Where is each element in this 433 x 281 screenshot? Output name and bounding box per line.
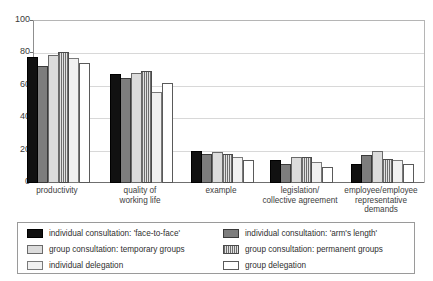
x-axis-label-0: productivity bbox=[14, 186, 100, 196]
bar-0-1 bbox=[37, 66, 48, 183]
bar-0-4 bbox=[68, 58, 79, 183]
bar-4-4 bbox=[392, 160, 403, 183]
bar-chart: 100806040200 bbox=[0, 8, 433, 186]
bar-2-4 bbox=[232, 157, 243, 183]
bar-1-1 bbox=[120, 78, 131, 183]
bar-3-2 bbox=[291, 157, 302, 183]
bar-4-0 bbox=[351, 164, 362, 183]
plot-area bbox=[33, 20, 425, 183]
bar-4-1 bbox=[361, 155, 372, 183]
bar-0-0 bbox=[27, 57, 38, 183]
legend-item-0[interactable]: individual consultation: 'face-to-face' bbox=[27, 227, 180, 240]
bar-2-1 bbox=[201, 154, 212, 183]
y-tick-label-0: 0 bbox=[2, 177, 30, 186]
x-axis-label-line: working life bbox=[97, 196, 183, 206]
bar-0-3 bbox=[58, 52, 69, 183]
bar-1-2 bbox=[131, 73, 142, 183]
bar-3-1 bbox=[280, 164, 291, 183]
x-axis-labels: productivityquality ofworking lifeexampl… bbox=[0, 186, 433, 220]
x-axis-label-line: productivity bbox=[14, 186, 100, 196]
x-axis-label-line: example bbox=[186, 186, 256, 196]
legend-item-5[interactable]: group delegation bbox=[223, 259, 306, 272]
legend-item-3[interactable]: group consultation: permanent groups bbox=[223, 243, 383, 256]
bar-2-2 bbox=[212, 152, 223, 183]
y-tick-label-40: 40 bbox=[2, 112, 30, 121]
x-axis-label-1: quality ofworking life bbox=[97, 186, 183, 205]
bar-1-5 bbox=[162, 83, 173, 183]
legend-label: individual delegation bbox=[49, 261, 123, 270]
bar-3-3 bbox=[301, 157, 312, 183]
x-axis-label-2: example bbox=[186, 186, 256, 196]
y-tick-label-60: 60 bbox=[2, 80, 30, 89]
legend-swatch-icon bbox=[27, 261, 43, 270]
bar-3-5 bbox=[322, 167, 333, 183]
bar-1-0 bbox=[110, 74, 121, 183]
clipped-caption-strip bbox=[0, 0, 433, 7]
bar-2-3 bbox=[222, 154, 233, 183]
legend-item-1[interactable]: individual consultation: 'arm's length' bbox=[223, 227, 377, 240]
bar-group-4 bbox=[351, 21, 413, 183]
bar-4-2 bbox=[372, 151, 383, 183]
legend-label: group consultation: temporary groups bbox=[49, 245, 185, 254]
legend-label: individual consultation: 'arm's length' bbox=[245, 229, 377, 238]
bar-group-3 bbox=[270, 21, 332, 183]
bar-2-5 bbox=[243, 160, 254, 183]
y-tick-label-100: 100 bbox=[2, 15, 30, 24]
legend-label: individual consultation: 'face-to-face' bbox=[49, 229, 180, 238]
legend-label: group consultation: permanent groups bbox=[245, 245, 383, 254]
bar-group-2 bbox=[191, 21, 253, 183]
x-axis-label-line: quality of bbox=[97, 186, 183, 196]
x-axis-label-line: employee/employee bbox=[326, 186, 433, 196]
legend-label: group delegation bbox=[245, 261, 306, 270]
bar-0-2 bbox=[48, 55, 59, 183]
legend-swatch-icon bbox=[27, 229, 43, 238]
legend-item-2[interactable]: group consultation: temporary groups bbox=[27, 243, 185, 256]
bar-group-1 bbox=[110, 21, 172, 183]
bar-0-5 bbox=[79, 63, 90, 183]
legend-swatch-icon bbox=[223, 229, 239, 238]
y-axis: 100806040200 bbox=[0, 20, 30, 182]
bar-3-4 bbox=[311, 162, 322, 183]
bar-3-0 bbox=[270, 160, 281, 183]
y-tick-label-80: 80 bbox=[2, 47, 30, 56]
x-axis-label-line: representative bbox=[326, 196, 433, 206]
bar-1-3 bbox=[141, 71, 152, 183]
legend-swatch-icon bbox=[27, 245, 43, 254]
legend-swatch-icon bbox=[223, 245, 239, 254]
chart-legend: individual consultation: 'face-to-face'i… bbox=[17, 222, 415, 274]
bar-4-5 bbox=[403, 164, 414, 183]
x-axis-label-line: demands bbox=[326, 205, 433, 215]
bar-2-0 bbox=[191, 151, 202, 183]
legend-swatch-icon bbox=[223, 261, 239, 270]
y-tick-label-20: 20 bbox=[2, 145, 30, 154]
clipped-caption-text bbox=[14, 0, 17, 3]
legend-item-4[interactable]: individual delegation bbox=[27, 259, 123, 272]
bar-group-0 bbox=[27, 21, 89, 183]
x-axis-label-4: employee/employeerepresentativedemands bbox=[326, 186, 433, 215]
bar-4-3 bbox=[382, 159, 393, 183]
bar-1-4 bbox=[151, 92, 162, 183]
